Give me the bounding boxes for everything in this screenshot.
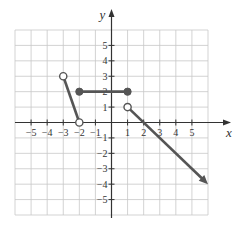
y-tick-label: −1 [97,132,108,143]
y-tick-label: 5 [103,40,108,51]
y-tick-label: −5 [97,194,108,205]
x-tick-label: 4 [173,127,178,138]
closed-endpoint [76,88,83,95]
x-tick-label: −2 [74,127,85,138]
x-tick-label: 1 [125,127,130,138]
y-axis-label: y [98,7,106,22]
x-tick-label: 5 [189,127,194,138]
y-tick-label: −4 [97,179,108,190]
y-tick-label: −2 [97,148,108,159]
y-tick-label: 1 [103,102,108,113]
x-tick-label: −5 [26,127,37,138]
x-axis-label: x [225,125,232,140]
open-endpoint [124,103,131,110]
y-tick-label: −3 [97,163,108,174]
open-endpoint [76,119,83,126]
x-tick-label: −3 [58,127,69,138]
x-tick-label: −4 [42,127,53,138]
x-tick-label: 2 [141,127,146,138]
open-endpoint [60,73,67,80]
piecewise-graph: −5−4−3−2−11234554321−1−2−3−4−5 x y [0,0,239,228]
segment-1 [63,76,79,122]
y-tick-label: 4 [103,55,108,66]
y-tick-label: 3 [103,71,108,82]
closed-endpoint [124,88,131,95]
